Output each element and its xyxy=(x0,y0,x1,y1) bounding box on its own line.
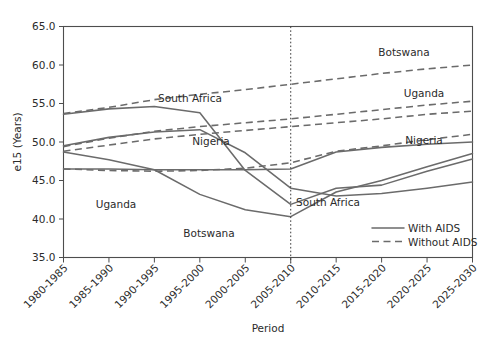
series-annotations: BotswanaSouth AfricaUgandaNigeriaNigeria… xyxy=(96,46,445,239)
x-tick-label: 2020-2025 xyxy=(385,261,434,310)
series-line-nigeria-with-aids xyxy=(64,142,473,170)
series-annotation-south-africa: South Africa xyxy=(158,92,222,104)
x-tick-label: 2025-2030 xyxy=(430,261,479,310)
x-tick-label: 2000-2005 xyxy=(203,261,252,310)
series-annotation-botswana: Botswana xyxy=(183,227,234,239)
x-tick-label: 1990-1995 xyxy=(112,261,161,310)
x-tick-label: 1985-1990 xyxy=(66,261,115,310)
x-tick-label: 2015-2020 xyxy=(339,261,388,310)
x-tick-label: 2005-2010 xyxy=(248,261,297,310)
e15-line-chart: 35.040.045.050.055.060.065.0 1980-198519… xyxy=(0,0,487,341)
y-tick-label: 35.0 xyxy=(32,251,55,263)
legend-label-without-aids: Without AIDS xyxy=(408,236,478,248)
chart-legend: With AIDSWithout AIDS xyxy=(372,222,478,248)
y-axis-title: e15 (Years) xyxy=(11,112,23,171)
series-annotation-uganda: Uganda xyxy=(96,198,137,210)
y-tick-label: 60.0 xyxy=(32,59,55,71)
legend-label-with-aids: With AIDS xyxy=(408,222,461,234)
x-axis-ticks: 1980-19851985-19901990-19951995-20002000… xyxy=(21,258,479,311)
series-annotation-nigeria: Nigeria xyxy=(405,134,443,146)
x-tick-label: 1980-1985 xyxy=(21,261,70,310)
series-annotation-uganda: Uganda xyxy=(404,87,445,99)
series-annotation-nigeria: Nigeria xyxy=(192,135,230,147)
y-axis-ticks: 35.040.045.050.055.060.065.0 xyxy=(32,20,63,263)
y-tick-label: 40.0 xyxy=(32,213,55,225)
x-tick-label: 1995-2000 xyxy=(157,261,206,310)
series-annotation-botswana: Botswana xyxy=(378,46,429,58)
series-annotation-south-africa: South Africa xyxy=(296,196,360,208)
x-axis-title: Period xyxy=(252,322,285,334)
y-tick-label: 55.0 xyxy=(32,97,55,109)
chart-container: 35.040.045.050.055.060.065.0 1980-198519… xyxy=(0,0,487,341)
y-tick-label: 50.0 xyxy=(32,136,55,148)
y-tick-label: 65.0 xyxy=(32,20,55,32)
x-tick-label: 2010-2015 xyxy=(294,261,343,310)
y-tick-label: 45.0 xyxy=(32,174,55,186)
